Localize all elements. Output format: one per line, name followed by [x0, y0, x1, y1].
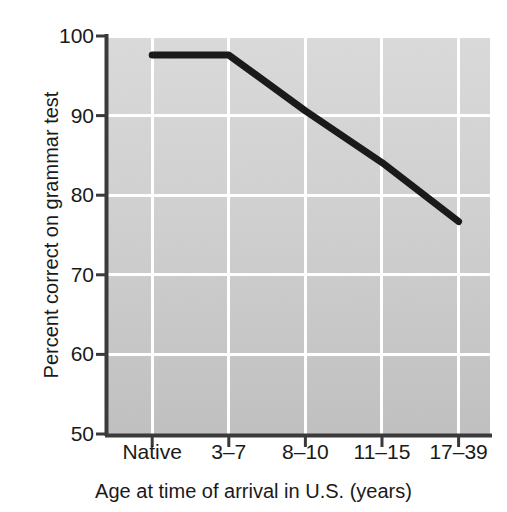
x-axis-tick-labels: Native3–78–1011–1517–39: [0, 0, 507, 512]
y-axis-title: Percent correct on grammar test: [34, 36, 68, 434]
chart-figure: 5060708090100 Native3–78–1011–1517–39 Pe…: [0, 0, 507, 512]
x-axis-title: Age at time of arrival in U.S. (years): [0, 479, 507, 503]
x-tick-label: 17–39: [404, 440, 507, 464]
